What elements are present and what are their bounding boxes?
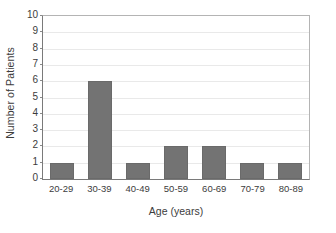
- y-axis-tick-label: 5: [20, 92, 38, 102]
- x-axis-tick-label: 70-79: [233, 182, 271, 198]
- bar-slot: [119, 16, 157, 179]
- bar-slot: [271, 16, 309, 179]
- bar-slot: [81, 16, 119, 179]
- y-axis-tick-label: 3: [20, 124, 38, 134]
- bar-slot: [157, 16, 195, 179]
- bar: [240, 163, 264, 179]
- y-axis-title: Number of Patients: [0, 0, 20, 186]
- bar: [202, 146, 226, 179]
- x-axis-tick-label: 80-89: [272, 182, 310, 198]
- y-axis-tick-label: 7: [20, 59, 38, 69]
- x-axis-tick-label: 40-49: [119, 182, 157, 198]
- x-axis-title: Age (years): [42, 205, 310, 217]
- bar: [88, 81, 112, 179]
- y-axis-title-text: Number of Patients: [4, 47, 16, 139]
- y-axis-tick-label: 4: [20, 108, 38, 118]
- bar: [278, 163, 302, 179]
- y-axis-tick-label: 9: [20, 26, 38, 36]
- y-axis-tick-label: 6: [20, 75, 38, 85]
- y-axis-tick-label: 10: [20, 10, 38, 20]
- y-axis-tick-labels: 012345678910: [20, 10, 40, 180]
- bar-chart: Number of Patients 012345678910 20-2930-…: [0, 0, 336, 233]
- y-axis-tick-label: 8: [20, 43, 38, 53]
- y-axis-tick-label: 1: [20, 157, 38, 167]
- x-axis-tick-label: 30-39: [80, 182, 118, 198]
- bar-slot: [43, 16, 81, 179]
- bar: [50, 163, 74, 179]
- bar-slot: [233, 16, 271, 179]
- bar-series: [43, 16, 309, 179]
- bar: [126, 163, 150, 179]
- x-axis-tick-label: 20-29: [42, 182, 80, 198]
- bar-slot: [195, 16, 233, 179]
- y-axis-tick-label: 2: [20, 140, 38, 150]
- plot-area: [42, 15, 310, 180]
- y-axis-tick-label: 0: [20, 173, 38, 183]
- bar: [164, 146, 188, 179]
- x-axis-tick-label: 50-59: [157, 182, 195, 198]
- x-axis-tick-labels: 20-2930-3940-4950-5960-6970-7980-89: [42, 182, 310, 198]
- x-axis-tick-label: 60-69: [195, 182, 233, 198]
